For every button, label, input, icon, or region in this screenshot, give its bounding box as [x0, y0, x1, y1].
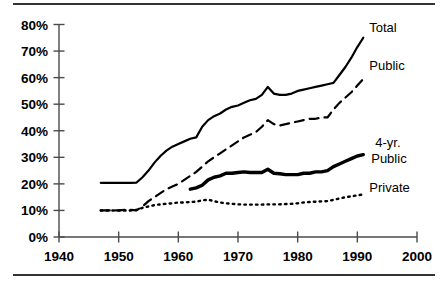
- line-chart-plot: 0%10%20%30%40%50%60%70%80%19401950196019…: [0, 0, 446, 285]
- x-tick-label: 1980: [283, 249, 313, 264]
- y-tick-label: 0%: [28, 230, 48, 245]
- series-label-4-yr-public: 4-yr.: [375, 135, 400, 150]
- x-tick-label: 1990: [342, 249, 372, 264]
- series-line-public: [101, 79, 364, 210]
- x-tick-label: 1970: [223, 249, 253, 264]
- y-tick-label: 40%: [21, 124, 48, 139]
- series-line-4-yr-public: [190, 155, 363, 190]
- x-tick-label: 1950: [104, 249, 134, 264]
- series-line-private: [101, 195, 364, 211]
- y-tick-label: 80%: [21, 18, 48, 33]
- series-label-public: Public: [369, 58, 405, 73]
- y-tick-label: 60%: [21, 71, 48, 86]
- y-tick-label: 70%: [21, 44, 48, 59]
- y-tick-label: 10%: [21, 203, 48, 218]
- series-label-4-yr-public-line2: Public: [371, 151, 407, 166]
- x-tick-label: 2000: [402, 249, 432, 264]
- y-tick-label: 30%: [21, 150, 48, 165]
- series-label-private: Private: [369, 180, 409, 195]
- x-tick-label: 1960: [163, 249, 193, 264]
- y-tick-label: 50%: [21, 97, 48, 112]
- series-label-total: Total: [369, 20, 397, 35]
- x-tick-label: 1940: [44, 249, 74, 264]
- chart-figure: 0%10%20%30%40%50%60%70%80%19401950196019…: [0, 0, 446, 285]
- y-tick-label: 20%: [21, 177, 48, 192]
- series-line-total: [101, 38, 364, 183]
